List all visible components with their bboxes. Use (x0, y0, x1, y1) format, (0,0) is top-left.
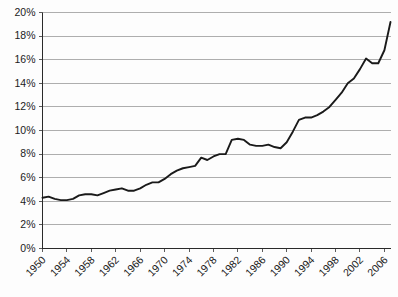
x-tick-label: 1958 (72, 253, 97, 278)
x-tick-label: 1954 (47, 253, 72, 278)
y-tick-label: 16% (14, 53, 35, 65)
y-tick-label: 6% (20, 171, 35, 183)
y-tick-label: 18% (14, 29, 35, 41)
x-tick-label: 2006 (365, 253, 390, 278)
y-tick-label: 14% (14, 77, 35, 89)
x-tick-label: 1998 (316, 253, 341, 278)
x-tick-label: 1978 (194, 253, 219, 278)
x-tick-labels-group: 1950195419581962196619701974197819821986… (23, 253, 390, 278)
x-tick-label: 1982 (218, 253, 243, 278)
x-tick-label: 1966 (121, 253, 146, 278)
gridlines-group (39, 13, 391, 249)
line-chart: 20%18%16%14%12%10%8%6%4%2%0% 19501954195… (0, 0, 398, 297)
y-tick-labels-group: 20%18%16%14%12%10%8%6%4%2%0% (14, 6, 35, 254)
y-tick-label: 2% (20, 218, 35, 230)
x-tick-label: 1970 (145, 253, 170, 278)
x-tick-label: 1986 (243, 253, 268, 278)
y-tick-label: 12% (14, 100, 35, 112)
x-tick-label: 2002 (340, 253, 365, 278)
y-tick-label: 0% (20, 242, 35, 254)
chart-canvas: 20%18%16%14%12%10%8%6%4%2%0% 19501954195… (0, 0, 398, 297)
y-tick-label: 8% (20, 147, 35, 159)
x-tick-label: 1990 (267, 253, 292, 278)
x-tick-label: 1962 (96, 253, 121, 278)
y-tick-label: 10% (14, 124, 35, 136)
y-tick-label: 4% (20, 195, 35, 207)
data-series-line (43, 22, 391, 200)
x-tick-label: 1950 (23, 253, 48, 278)
x-tick-label: 1974 (169, 253, 194, 278)
x-tick-label: 1994 (292, 253, 317, 278)
y-tick-label: 20% (14, 6, 35, 18)
